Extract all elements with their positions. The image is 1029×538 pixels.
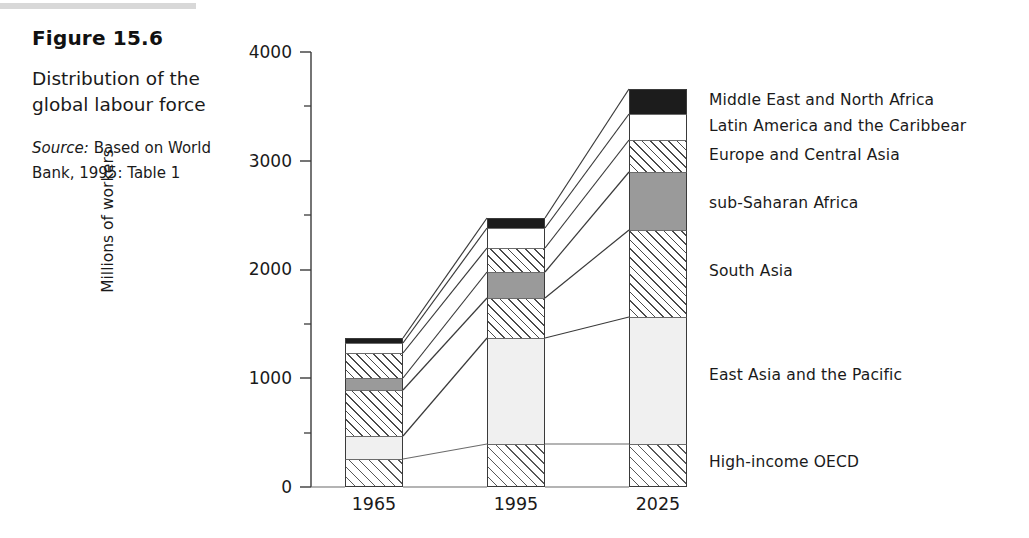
y-axis-title: Millions of workers — [99, 91, 117, 351]
segment-2025-europe-and-central-asia — [629, 140, 687, 172]
legend-item-middle-east-and-north-africa: Middle East and North Africa — [709, 91, 934, 109]
legend-item-latin-america-and-the-caribbean: Latin America and the Caribbear — [709, 117, 966, 135]
segment-1965-latin-america-and-the-caribbean — [345, 343, 403, 353]
segment-1995-latin-america-and-the-caribbean — [487, 228, 545, 248]
segment-1995-europe-and-central-asia — [487, 248, 545, 272]
y-tick-3000: 3000 — [228, 153, 292, 170]
y-tick-2000: 2000 — [228, 261, 292, 278]
segment-1995-south-asia — [487, 298, 545, 338]
y-axis-tick-labels: 4000 3000 2000 1000 0 — [228, 0, 292, 538]
x-tick-2025: 2025 — [603, 494, 713, 514]
segment-1995-sub-saharan-africa — [487, 272, 545, 298]
y-tick-4000: 4000 — [228, 44, 292, 61]
x-tick-1995: 1995 — [461, 494, 571, 514]
segment-1995-high-income-oecd — [487, 444, 545, 487]
segment-2025-south-asia — [629, 230, 687, 317]
segment-1965-east-asia-and-the-pacific — [345, 436, 403, 459]
x-tick-1965: 1965 — [319, 494, 429, 514]
legend-item-sub-saharan-africa: sub-Saharan Africa — [709, 194, 859, 212]
segment-1965-south-asia — [345, 390, 403, 436]
segment-1965-sub-saharan-africa — [345, 378, 403, 390]
segment-2025-east-asia-and-the-pacific — [629, 317, 687, 444]
segment-1965-high-income-oecd — [345, 459, 403, 487]
segment-1995-east-asia-and-the-pacific — [487, 338, 545, 444]
legend-item-europe-and-central-asia: Europe and Central Asia — [709, 146, 900, 164]
segment-2025-latin-america-and-the-caribbean — [629, 114, 687, 140]
segment-2025-high-income-oecd — [629, 444, 687, 487]
figure-page: Figure 15.6 Distribution of the global l… — [0, 0, 1029, 538]
legend-item-high-income-oecd: High-income OECD — [709, 453, 859, 471]
legend-item-east-asia-and-the-pacific: East Asia and the Pacific — [709, 366, 902, 384]
legend-item-south-asia: South Asia — [709, 262, 793, 280]
segment-1965-europe-and-central-asia — [345, 353, 403, 378]
segment-2025-sub-saharan-africa — [629, 172, 687, 230]
segment-1995-middle-east-and-north-africa — [487, 218, 545, 228]
chart-plot-area: Millions of workers 4000 3000 2000 1000 … — [0, 0, 1029, 538]
segment-2025-middle-east-and-north-africa — [629, 89, 687, 114]
y-tick-0: 0 — [228, 479, 292, 496]
y-tick-1000: 1000 — [228, 370, 292, 387]
